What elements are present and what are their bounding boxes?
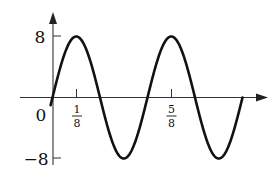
fraction-denominator: 8 [74, 117, 81, 130]
y-axis-arrow-icon [49, 12, 57, 24]
y-tick-label-8: 8 [35, 27, 46, 47]
fraction-denominator: 8 [168, 117, 175, 130]
fraction-numerator: 5 [168, 103, 175, 116]
fraction-numerator: 1 [74, 103, 81, 116]
x-tick-label-5-8: 5 8 [167, 103, 177, 130]
origin-label: 0 [36, 105, 47, 125]
sinusoid-plot: 8 −8 0 1 8 5 8 [0, 0, 273, 178]
x-axis-arrow-icon [256, 94, 268, 102]
x-tick-label-1-8: 1 8 [72, 103, 82, 130]
y-tick-label-neg8: −8 [23, 149, 48, 169]
